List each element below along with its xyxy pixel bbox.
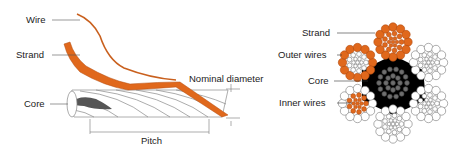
inner-wire	[422, 94, 427, 99]
inner-wire	[418, 57, 423, 62]
outer-wire	[389, 105, 397, 113]
outer-wire	[432, 71, 440, 79]
inner-wire	[387, 122, 391, 126]
core-wire	[386, 76, 391, 81]
inner-wire	[357, 52, 362, 57]
inner-wire	[364, 60, 369, 65]
strand-bottom	[374, 105, 412, 143]
outer-wire	[404, 38, 412, 46]
inner-wire	[393, 119, 397, 123]
inner-wire	[422, 53, 427, 58]
core-wire	[399, 92, 404, 97]
inner-wire	[399, 40, 404, 45]
outer-wire	[389, 53, 397, 61]
core-wire	[399, 70, 404, 75]
inner-wire	[383, 43, 388, 48]
outer-wire	[396, 51, 404, 59]
core-wire	[378, 87, 383, 92]
inner-wire	[428, 93, 433, 98]
inner-wire	[425, 105, 429, 109]
inner-wire	[431, 61, 435, 65]
label-strand: Strand	[16, 49, 44, 60]
inner-wire	[383, 125, 388, 130]
outer-wire	[389, 23, 397, 31]
inner-wire	[354, 98, 358, 102]
wire-rope-diagram: Wire Strand Core Nominal diameter Pitch …	[0, 0, 469, 153]
core-wire	[396, 76, 401, 81]
center-wire	[356, 102, 360, 106]
rope-side-view: Wire Strand Core Nominal diameter Pitch	[16, 14, 263, 146]
inner-wire	[397, 45, 402, 50]
label-outer-wires: Outer wires	[278, 49, 327, 60]
inner-wire	[357, 69, 362, 74]
inner-wire	[362, 66, 367, 71]
core-wire	[394, 67, 399, 72]
inner-wire	[347, 98, 352, 103]
inner-wire	[433, 96, 438, 101]
inner-wire	[428, 52, 433, 57]
label-wire: Wire	[26, 14, 46, 25]
outer-wire	[366, 92, 374, 100]
outer-wire	[402, 112, 410, 120]
outer-wire	[396, 133, 404, 141]
core-wire	[382, 70, 387, 75]
inner-wire	[351, 53, 356, 58]
inner-wire	[399, 122, 404, 127]
label-nominal-diameter: Nominal diameter	[189, 73, 263, 84]
inner-wire	[428, 110, 433, 115]
inner-wire	[418, 104, 423, 109]
inner-wire	[362, 96, 367, 101]
outer-wire	[437, 51, 445, 59]
inner-wire	[392, 48, 397, 53]
outer-wire	[368, 58, 376, 66]
inner-wire	[431, 102, 435, 106]
inner-wire	[389, 37, 393, 41]
inner-wire	[429, 57, 433, 61]
core-wire	[388, 67, 393, 72]
inner-wire	[425, 98, 429, 102]
outer-wire	[437, 92, 445, 100]
inner-wire	[428, 69, 433, 74]
outer-wire	[361, 71, 369, 79]
inner-wire	[389, 119, 393, 123]
core-wire	[386, 86, 391, 91]
inner-wire	[422, 109, 427, 114]
inner-wire	[352, 102, 356, 106]
inner-wire	[351, 94, 356, 99]
outer-wire	[374, 38, 382, 46]
core-wire	[403, 87, 408, 92]
core-wire	[391, 74, 396, 79]
inner-wire	[393, 126, 397, 130]
inner-wire	[347, 63, 352, 68]
core-wire	[403, 75, 408, 80]
center-wire	[356, 61, 360, 65]
outer-wire	[404, 120, 412, 128]
inner-wire	[364, 101, 369, 106]
inner-wire	[392, 130, 397, 135]
label-inner-wires: Inner wires	[279, 97, 326, 108]
inner-wire	[354, 64, 358, 68]
center-wire	[391, 122, 395, 126]
inner-wire	[418, 98, 423, 103]
center-wire	[427, 61, 431, 65]
core-wire	[384, 81, 389, 86]
outer-wire	[424, 114, 432, 122]
inner-wire	[433, 55, 438, 60]
inner-wire	[392, 113, 397, 118]
outer-wire	[409, 99, 417, 107]
outer-wire	[424, 84, 432, 92]
inner-wire	[386, 47, 391, 52]
inner-wire	[354, 57, 358, 61]
outer-wire	[338, 99, 346, 107]
core-wire	[378, 75, 383, 80]
inner-wire	[389, 44, 393, 48]
inner-wire	[392, 31, 397, 36]
outer-wire	[424, 73, 432, 81]
core-wire	[396, 86, 401, 91]
outer-wire	[439, 58, 447, 66]
inner-wire	[433, 66, 438, 71]
inner-wire	[423, 61, 427, 65]
inner-wire	[383, 119, 388, 124]
outer-wire	[353, 73, 361, 81]
inner-wire	[362, 107, 367, 112]
